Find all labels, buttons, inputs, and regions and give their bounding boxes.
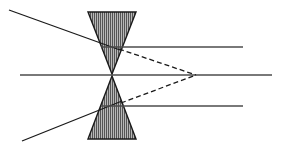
ray-diagram-canvas	[0, 0, 281, 149]
ray-diagram-figure	[0, 0, 281, 149]
